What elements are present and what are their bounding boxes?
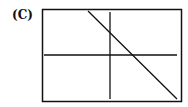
- line-graph: [0, 0, 188, 107]
